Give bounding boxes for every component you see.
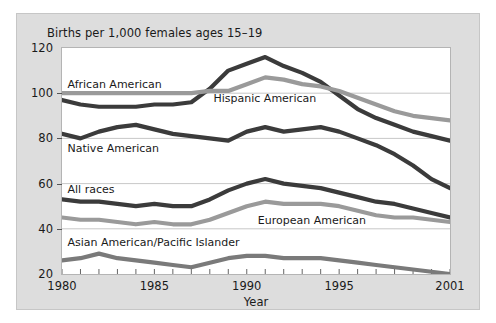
figure-panel: Births per 1,000 females ages 15–19 2040… (16, 13, 480, 310)
x-axis-tick-label: 1985 (140, 279, 169, 293)
x-axis-tick-label: 1980 (47, 279, 76, 293)
series-line (62, 125, 450, 188)
series-label: European American (258, 214, 366, 227)
x-axis-tick-label: 1995 (325, 279, 354, 293)
series-label: Native American (68, 142, 159, 155)
series-label: Asian American/Pacific Islander (68, 236, 240, 249)
series-label: African American (68, 78, 162, 91)
series-line (62, 179, 450, 217)
y-axis-tick-mark (57, 184, 62, 185)
series-label: All races (68, 183, 115, 196)
y-axis-tick-mark (57, 93, 62, 94)
series-line (62, 254, 450, 274)
y-axis-tick-label: 100 (17, 86, 53, 100)
y-axis-tick-mark (57, 138, 62, 139)
y-axis-tick-label: 60 (17, 177, 53, 191)
series-label: Hispanic American (214, 92, 317, 105)
y-axis-tick-label: 40 (17, 222, 53, 236)
x-axis-tick-label: 2001 (435, 279, 464, 293)
x-axis-tick-label: 1990 (232, 279, 261, 293)
y-axis-tick-label: 120 (17, 41, 53, 55)
x-axis-label: Year (61, 295, 451, 309)
y-axis-tick-mark (57, 229, 62, 230)
y-axis-tick-label: 80 (17, 131, 53, 145)
chart-title: Births per 1,000 females ages 15–19 (47, 26, 262, 40)
